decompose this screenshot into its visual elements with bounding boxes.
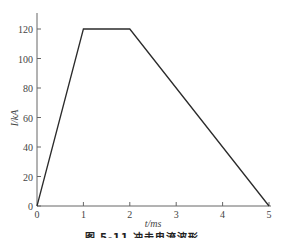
x-axis-label: t/ms: [145, 218, 162, 229]
y-tick-label: 40: [23, 142, 33, 153]
y-tick-label: 0: [28, 201, 33, 212]
x-tick-label: 5: [267, 209, 272, 220]
y-axis-label: I/kA: [9, 109, 20, 128]
y-tick-label: 120: [18, 24, 33, 35]
y-ticks: 0 20 40 60 80 100 120: [18, 24, 41, 212]
chart: 0 20 40 60 80 100 120 0 1 2 3 4 5 t/ms I…: [0, 0, 284, 238]
y-tick-label: 100: [18, 54, 33, 65]
y-tick-label: 20: [23, 172, 33, 183]
x-tick-label: 2: [127, 209, 132, 220]
x-tick-label: 3: [174, 209, 179, 220]
current-waveform-line: [37, 29, 269, 206]
x-tick-label: 1: [81, 209, 86, 220]
y-tick-label: 60: [23, 113, 33, 124]
x-tick-label: 4: [220, 209, 225, 220]
y-tick-label: 80: [23, 83, 33, 94]
x-tick-label: 0: [35, 209, 40, 220]
figure-caption: 图 5-11 冲击电流波形: [0, 229, 284, 238]
